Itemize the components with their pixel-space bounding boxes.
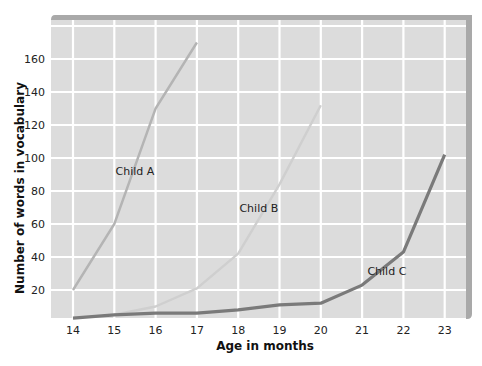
series-label: Child A: [116, 165, 155, 178]
y-tick-label: 120: [24, 119, 45, 132]
y-tick-label: 140: [24, 86, 45, 99]
y-tick-label: 80: [31, 185, 45, 198]
y-tick-label: 100: [24, 152, 45, 165]
x-tick-label: 17: [190, 324, 204, 337]
x-tick-label: 14: [66, 324, 80, 337]
x-tick-label: 15: [107, 324, 121, 337]
y-tick-label: 40: [31, 251, 45, 264]
x-tick-label: 16: [149, 324, 163, 337]
y-tick-label: 20: [31, 284, 45, 297]
y-tick-label: 60: [31, 218, 45, 231]
x-tick-label: 22: [396, 324, 410, 337]
x-tick-label: 21: [355, 324, 369, 337]
y-axis-title: Number of words in vocabulary: [13, 82, 27, 294]
y-axis-ticks: 20406080100120140160: [24, 53, 45, 297]
x-axis-title: Age in months: [216, 339, 314, 353]
series-label: Child C: [367, 265, 406, 278]
x-tick-label: 19: [273, 324, 287, 337]
y-tick-label: 160: [24, 53, 45, 66]
series-label: Child B: [239, 202, 278, 215]
x-axis-ticks: 14151617181920212223: [66, 324, 452, 337]
x-tick-label: 23: [438, 324, 452, 337]
vocabulary-line-chart: Child AChild BChild C 204060801001201401…: [0, 0, 482, 366]
x-tick-label: 20: [314, 324, 328, 337]
x-tick-label: 18: [231, 324, 245, 337]
